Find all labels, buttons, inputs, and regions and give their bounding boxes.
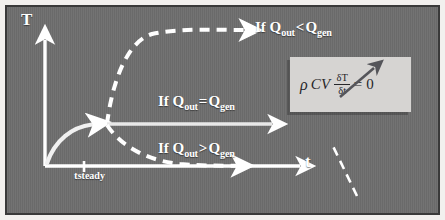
- label-qout-eq-prefix: If Q: [158, 93, 184, 109]
- y-axis-label: T: [21, 10, 32, 30]
- label-qout-lt-q2: Q: [305, 19, 317, 35]
- equation-equals: =: [354, 76, 362, 93]
- tsteady-subscript: steady: [78, 170, 105, 181]
- label-qout-lt-prefix: If Q: [255, 19, 281, 35]
- label-qout-eq-q2: Q: [208, 93, 220, 109]
- label-qout-eq-sub2: gen: [220, 101, 235, 112]
- label-qout-lt-qgen: If Qout<Qgen: [255, 20, 332, 38]
- label-qout-gt-operator: >: [199, 140, 208, 156]
- label-qout-lt-sub1: out: [281, 27, 295, 38]
- equation-value: 0: [366, 76, 374, 93]
- equation-fraction: δT δt: [334, 73, 349, 97]
- label-qout-gt-sub1: out: [184, 148, 198, 159]
- label-qout-gt-qgen: If Qout>Qgen: [158, 141, 235, 159]
- curve-transient-ramp: [47, 125, 92, 164]
- equation-callout-box: ρ CV δT δt = 0: [290, 57, 411, 112]
- equation-rho: ρ: [300, 76, 308, 94]
- label-qout-eq-qgen: If Qout=Qgen: [158, 94, 235, 112]
- x-axis-label: t: [305, 152, 311, 172]
- x-tick-label-tsteady: tsteady: [74, 169, 105, 181]
- equation-denominator: δt: [336, 85, 348, 97]
- equation-numerator: δT: [334, 73, 349, 86]
- label-qout-gt-prefix: If Q: [158, 140, 184, 156]
- equation-expression: ρ CV δT δt = 0: [300, 73, 374, 97]
- label-qout-lt-operator: <: [296, 19, 305, 35]
- label-qout-eq-operator: =: [199, 93, 208, 109]
- callout-leader-line: [331, 142, 357, 196]
- figure-canvas: T t tsteady If Qout<Qgen If Qout=Qgen If…: [0, 0, 445, 220]
- label-qout-lt-sub2: gen: [317, 27, 332, 38]
- label-qout-eq-sub1: out: [184, 101, 198, 112]
- equation-cv: CV: [311, 76, 331, 93]
- label-qout-gt-q2: Q: [208, 140, 220, 156]
- label-qout-gt-sub2: gen: [220, 148, 235, 159]
